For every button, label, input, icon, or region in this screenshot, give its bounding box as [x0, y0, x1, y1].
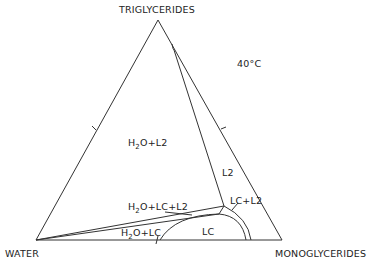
l2-boundary-line: [172, 44, 224, 206]
temperature-label: 40°C: [237, 58, 261, 69]
tick-right-edge: [221, 127, 226, 129]
ternary-phase-diagram: TRIGLYCERIDES WATER MONOGLYCERIDES 40°C …: [0, 0, 367, 263]
region-label-h2o-lc-l2: H2O+LC+L2: [128, 201, 188, 215]
region-label-l2: L2: [222, 167, 234, 178]
vertex-label-triglycerides: TRIGLYCERIDES: [118, 4, 195, 15]
region-label-h2o-lc: H2O+LC: [121, 227, 161, 241]
region-label-lc-l2: LC+L2: [230, 195, 262, 206]
region-label-lc: LC: [202, 226, 214, 237]
region-label-h2o-l2: H2O+L2: [128, 137, 168, 151]
vertex-label-monoglycerides: MONOGLYCERIDES: [275, 248, 366, 259]
lc-l2-boundary-outer: [224, 206, 251, 240]
tick-left-edge: [92, 126, 96, 130]
vertex-label-water: WATER: [5, 248, 39, 259]
